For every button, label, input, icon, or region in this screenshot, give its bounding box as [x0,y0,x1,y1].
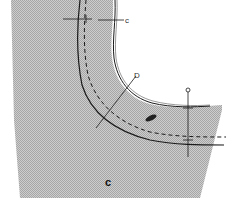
diagonal-marker-label: D [134,71,140,80]
fabric-piece [11,0,222,198]
cut-edge-line-inner [115,0,210,106]
pattern-diagram: c D c [0,0,228,207]
right-marker-circle [186,88,190,92]
piece-label: c [105,176,111,188]
top-marker-label: c [125,16,129,25]
